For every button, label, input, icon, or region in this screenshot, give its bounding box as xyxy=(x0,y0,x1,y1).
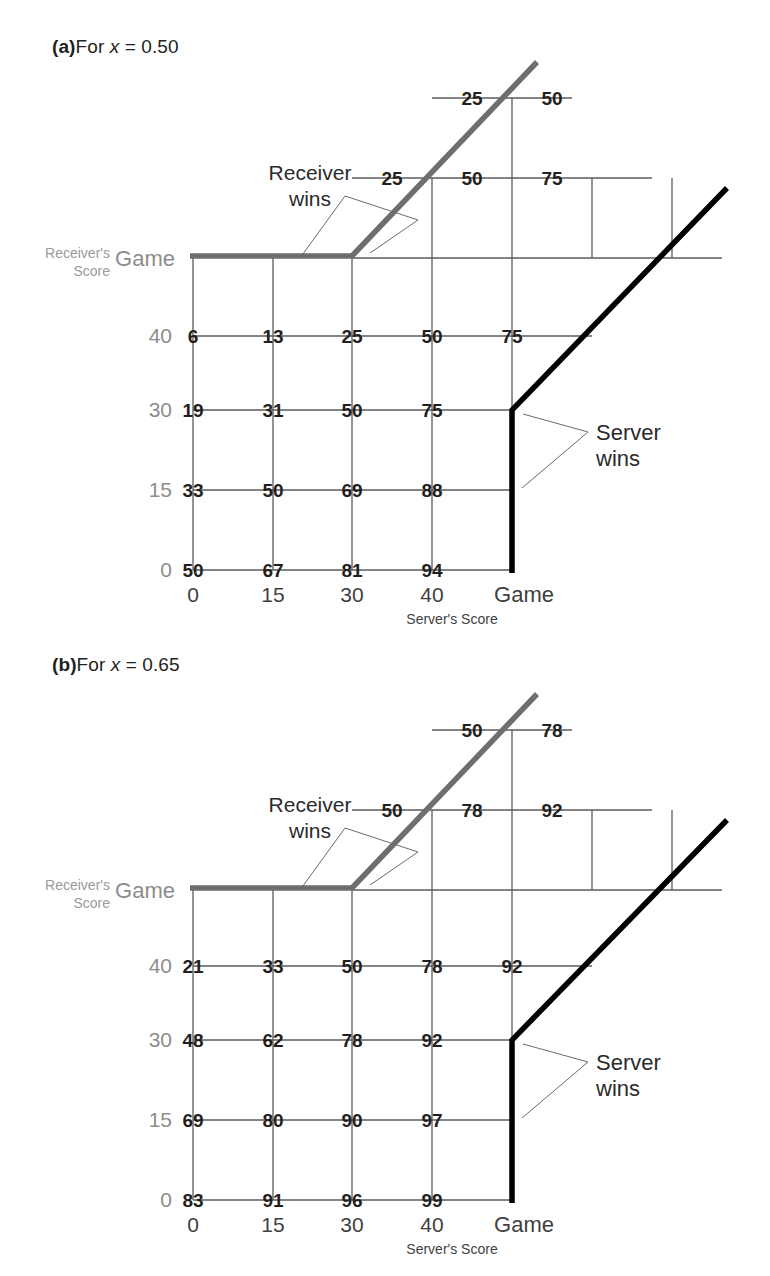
x-tick-label: 15 xyxy=(261,1213,284,1236)
panel-b-server-label-line2: wins xyxy=(595,1076,640,1101)
cell-value: 75 xyxy=(501,326,523,347)
cell-value: 75 xyxy=(421,400,443,421)
cell-value: 67 xyxy=(262,560,283,581)
panel-a-server-leader-line xyxy=(522,414,588,488)
cell-value: 31 xyxy=(262,400,284,421)
cell-value: 25 xyxy=(381,168,403,189)
cell-value: 25 xyxy=(461,88,483,109)
y-tick-game: Game xyxy=(115,246,175,271)
panel-a-y-axis-title: Receiver's Score xyxy=(45,245,110,279)
x-tick-label: 40 xyxy=(420,583,443,606)
cell-value: 80 xyxy=(262,1110,283,1131)
panel-b-server-leader-line xyxy=(522,1044,588,1118)
x-tick-label: 30 xyxy=(340,583,363,606)
y-tick-label: 0 xyxy=(160,1188,172,1211)
cell-value: 78 xyxy=(541,720,562,741)
panel-b: (b)For x = 0.65 xyxy=(0,618,770,1276)
y-axis-title-line1: Receiver's xyxy=(45,245,110,261)
y-tick-label: 15 xyxy=(149,478,172,501)
panel-b-server-label-line1: Server xyxy=(596,1050,661,1075)
x-tick-game: Game xyxy=(494,1212,554,1237)
y-tick-label: 40 xyxy=(149,324,172,347)
y-tick-label: 30 xyxy=(149,398,172,421)
cell-value: 6 xyxy=(188,326,199,347)
panel-b-y-axis-title: Receiver's Score xyxy=(45,877,110,911)
cell-value: 33 xyxy=(182,480,203,501)
cell-value: 78 xyxy=(341,1030,362,1051)
panel-a-receiver-boundary xyxy=(190,62,537,256)
y-axis-title-line2: Score xyxy=(73,895,110,911)
cell-value: 88 xyxy=(421,480,442,501)
cell-value: 69 xyxy=(341,480,362,501)
cell-value: 69 xyxy=(182,1110,203,1131)
cell-value: 90 xyxy=(341,1110,362,1131)
cell-value: 62 xyxy=(262,1030,283,1051)
panel-a-receiver-label-line1: Receiver xyxy=(269,161,352,184)
cell-value: 97 xyxy=(421,1110,442,1131)
y-axis-title-line1: Receiver's xyxy=(45,877,110,893)
panel-b-receiver-boundary xyxy=(190,694,537,888)
panel-a: (a)For x = 0.50 xyxy=(0,0,770,640)
y-tick-label: 0 xyxy=(160,558,172,581)
y-tick-game: Game xyxy=(115,878,175,903)
y-axis-title-line2: Score xyxy=(73,263,110,279)
cell-value: 50 xyxy=(461,168,482,189)
y-tick-label: 30 xyxy=(149,1028,172,1051)
x-tick-label: 40 xyxy=(420,1213,443,1236)
cell-value: 81 xyxy=(341,560,363,581)
cell-value: 19 xyxy=(182,400,203,421)
cell-value: 50 xyxy=(182,560,203,581)
panel-b-receiver-label-line2: wins xyxy=(288,819,331,842)
cell-value: 50 xyxy=(381,800,402,821)
cell-value: 50 xyxy=(461,720,482,741)
cell-value: 50 xyxy=(262,480,283,501)
cell-value: 48 xyxy=(182,1030,203,1051)
cell-value: 78 xyxy=(461,800,482,821)
cell-value: 99 xyxy=(421,1190,442,1211)
cell-value: 50 xyxy=(541,88,562,109)
cell-value: 94 xyxy=(421,560,443,581)
panel-b-receiver-label-line1: Receiver xyxy=(269,793,352,816)
x-tick-label: 15 xyxy=(261,583,284,606)
cell-value: 92 xyxy=(501,956,522,977)
panel-b-x-axis-title: Server's Score xyxy=(406,1241,498,1257)
cell-value: 78 xyxy=(421,956,442,977)
cell-value: 92 xyxy=(421,1030,442,1051)
x-tick-label: 0 xyxy=(187,1213,199,1236)
panel-b-x-axis-labels: 0 15 30 40 Game xyxy=(187,1212,554,1237)
x-tick-label: 30 xyxy=(340,1213,363,1236)
cell-value: 92 xyxy=(541,800,562,821)
cell-value: 96 xyxy=(341,1190,362,1211)
panel-a-y-axis-labels: Game 40 30 15 0 xyxy=(115,246,175,581)
y-tick-label: 15 xyxy=(149,1108,172,1131)
panel-a-server-boundary xyxy=(512,188,727,573)
panel-b-extension-values: 50 78 50 78 92 xyxy=(381,720,562,821)
cell-value: 33 xyxy=(262,956,283,977)
cell-value: 13 xyxy=(262,326,283,347)
panel-a-chart: Receiver wins Server wins 25 50 25 50 75… xyxy=(0,0,770,640)
cell-value: 50 xyxy=(341,956,362,977)
cell-value: 21 xyxy=(182,956,204,977)
panel-b-y-axis-labels: Game 40 30 15 0 xyxy=(115,878,175,1211)
cell-value: 25 xyxy=(341,326,363,347)
panel-a-receiver-label-line2: wins xyxy=(288,187,331,210)
panel-a-x-axis-labels: 0 15 30 40 Game xyxy=(187,582,554,607)
panel-a-server-label-line1: Server xyxy=(596,420,661,445)
x-tick-game: Game xyxy=(494,582,554,607)
panel-b-chart: Receiver wins Server wins 50 78 50 78 92… xyxy=(0,618,770,1276)
panel-b-server-boundary xyxy=(512,820,727,1203)
cell-value: 83 xyxy=(182,1190,203,1211)
cell-value: 75 xyxy=(541,168,563,189)
cell-value: 50 xyxy=(421,326,442,347)
cell-value: 50 xyxy=(341,400,362,421)
panel-a-server-label-line2: wins xyxy=(595,446,640,471)
figure-page: (a)For x = 0.50 xyxy=(0,0,770,1276)
y-tick-label: 40 xyxy=(149,954,172,977)
cell-value: 91 xyxy=(262,1190,284,1211)
x-tick-label: 0 xyxy=(187,583,199,606)
panel-a-extension-values: 25 50 25 50 75 xyxy=(381,88,563,189)
